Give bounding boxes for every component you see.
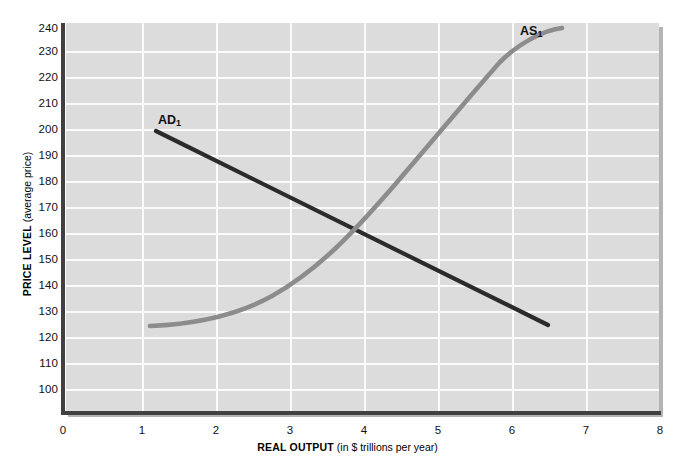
gridline-horizontal: [64, 103, 659, 105]
x-tick-label: 4: [361, 424, 368, 436]
gridline-vertical: [512, 23, 514, 413]
gridline-vertical: [364, 23, 366, 413]
gridline-horizontal: [64, 311, 659, 313]
gridline-vertical: [438, 23, 440, 413]
x-tick-label: 0: [60, 424, 67, 436]
gridline-horizontal: [64, 77, 659, 79]
ad1-curve-label: AD1: [158, 113, 181, 127]
plot-area: [64, 23, 659, 413]
y-tick-label: 210: [0, 97, 58, 109]
gridline-vertical: [142, 23, 144, 413]
gridline-horizontal: [64, 207, 659, 209]
x-tick-label: 2: [213, 424, 220, 436]
gridline-vertical: [216, 23, 218, 413]
as1-curve-label: AS1: [520, 24, 542, 38]
x-tick-label: 3: [287, 424, 294, 436]
gridline-horizontal: [64, 181, 659, 183]
gridline-horizontal: [64, 259, 659, 261]
x-tick-label: 5: [435, 424, 442, 436]
as1-label-text: AS: [520, 24, 537, 38]
ad1-label-subscript: 1: [176, 118, 181, 128]
gridline-horizontal: [64, 51, 659, 53]
x-tick-label: 7: [583, 424, 590, 436]
y-tick-label: 240: [0, 22, 58, 34]
x-axis-line: [61, 411, 661, 415]
gridline-horizontal: [64, 233, 659, 235]
ad1-label-text: AD: [158, 113, 176, 127]
y-tick-label: 100: [0, 383, 58, 395]
y-tick-label: 120: [0, 331, 58, 343]
gridline-vertical: [586, 23, 588, 413]
x-axis-title-note: (in $ trillions per year): [334, 441, 438, 453]
gridline-horizontal: [64, 389, 659, 391]
gridline-horizontal: [64, 129, 659, 131]
y-tick-label: 110: [0, 357, 58, 369]
aggregate-supply-demand-chart: 100 110 120 130 140 150 160 170 180 190 …: [0, 0, 695, 472]
x-axis-title: REAL OUTPUT (in $ trillions per year): [0, 441, 695, 453]
gridline-horizontal: [64, 337, 659, 339]
gridline-horizontal: [64, 155, 659, 157]
x-axis-title-main: REAL OUTPUT: [257, 441, 334, 453]
y-axis-title-main: PRICE LEVEL: [21, 225, 33, 296]
x-tick-label: 8: [657, 424, 664, 436]
y-tick-label: 220: [0, 71, 58, 83]
as1-label-subscript: 1: [537, 29, 542, 39]
gridline-horizontal: [64, 363, 659, 365]
y-tick-label: 230: [0, 45, 58, 57]
y-axis-line: [61, 23, 65, 415]
y-axis-title: PRICE LEVEL (average price): [21, 129, 33, 319]
gridline-vertical: [290, 23, 292, 413]
x-tick-label: 6: [509, 424, 516, 436]
x-tick-label: 1: [139, 424, 146, 436]
y-axis-title-note: (average price): [21, 152, 33, 226]
gridline-horizontal: [64, 285, 659, 287]
